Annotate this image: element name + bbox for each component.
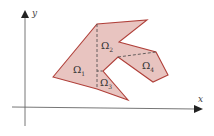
y-axis-arrow-icon — [21, 10, 29, 18]
diagram-canvas: y x Ω1 Ω2 Ω3 Ω4 — [0, 0, 214, 136]
y-axis-label: y — [31, 8, 38, 18]
x-axis-label: x — [198, 94, 203, 104]
x-axis-arrow-icon — [194, 105, 203, 113]
x-axis — [12, 107, 196, 109]
